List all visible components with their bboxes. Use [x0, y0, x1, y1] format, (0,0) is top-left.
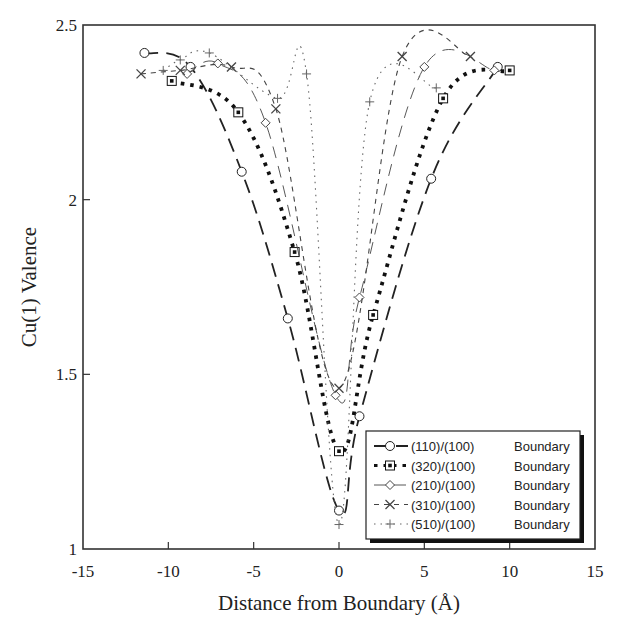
x-tick-label: -15: [72, 562, 95, 581]
valence-chart: -15-10-505101511.522.5 Distance from Bou…: [0, 0, 620, 638]
legend-suffix: Boundary: [514, 517, 570, 532]
series-210-100: [183, 49, 499, 403]
x-tick-label: 5: [420, 562, 429, 581]
legend-suffix: Boundary: [514, 439, 570, 454]
x-tick-label: 0: [335, 562, 344, 581]
series-320-100: [167, 66, 514, 456]
y-tick-label: 2: [69, 191, 78, 210]
legend-suffix: Boundary: [514, 478, 570, 493]
series-310-100: [137, 30, 475, 393]
x-tick-label: 10: [501, 562, 518, 581]
legend-label: (210)/(100): [411, 478, 475, 493]
y-tick-label: 2.5: [56, 16, 77, 35]
x-tick-label: 15: [587, 562, 604, 581]
legend-label: (510)/(100): [411, 517, 475, 532]
x-tick-label: -10: [157, 562, 180, 581]
y-tick-label: 1: [69, 540, 78, 559]
y-axis-title: Cu(1) Valence: [17, 227, 41, 347]
x-tick-label: -5: [247, 562, 261, 581]
legend-suffix: Boundary: [514, 498, 570, 513]
x-axis-title: Distance from Boundary (Å): [218, 591, 460, 615]
legend-suffix: Boundary: [514, 459, 570, 474]
legend: (110)/(100)Boundary(320)/(100)Boundary(2…: [366, 431, 584, 543]
legend-label: (320)/(100): [411, 459, 475, 474]
legend-label: (310)/(100): [411, 498, 475, 513]
legend-label: (110)/(100): [411, 439, 474, 454]
y-tick-label: 1.5: [56, 365, 77, 384]
